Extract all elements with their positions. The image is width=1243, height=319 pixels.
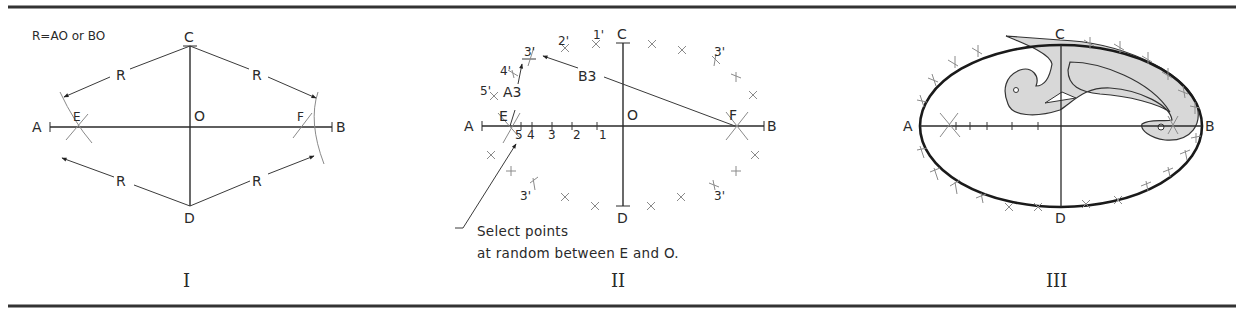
division-label: 1 — [599, 128, 607, 142]
radius-formula: R=AO or BO — [32, 29, 105, 43]
point-a-label: A — [32, 119, 42, 135]
arc-a3-label: A3 — [503, 84, 521, 100]
point-d-label: D — [184, 210, 195, 226]
radius-label: R — [116, 67, 126, 83]
point-d-label: D — [1055, 210, 1066, 226]
point-b-label: B — [767, 118, 777, 134]
panel-3: C D A B III — [903, 26, 1215, 291]
prime-label: 3' — [714, 45, 725, 59]
point-d-label: D — [617, 210, 628, 226]
prime-label: 3' — [714, 189, 725, 203]
point-c-label: C — [617, 26, 627, 42]
panel-numeral: II — [611, 270, 625, 291]
radius-label: R — [116, 173, 126, 189]
point-e-label: E — [73, 110, 81, 124]
radius-label: R — [252, 67, 262, 83]
note-line-1: Select points — [477, 223, 568, 239]
point-a-label: A — [903, 118, 913, 134]
point-o-label: O — [627, 107, 638, 123]
panel-1: R=AO or BO C D A B O E F R R R R I — [32, 29, 346, 291]
point-f-label: F — [297, 110, 304, 124]
panel-numeral: III — [1046, 270, 1067, 291]
panel-2: C D A B O E F A3 B3 5 4 3 2 1 1' 2' 3' 4… — [455, 26, 777, 291]
division-label: 2 — [573, 128, 581, 142]
point-b-label: B — [1205, 118, 1215, 134]
ellipse-construction-figure: R=AO or BO C D A B O E F R R R R I — [0, 0, 1243, 319]
point-o-label: O — [194, 108, 205, 124]
prime-label: 3' — [524, 45, 535, 59]
radius-label: R — [252, 173, 262, 189]
point-b-label: B — [336, 119, 346, 135]
prime-label: 4' — [500, 64, 511, 78]
point-c-label: C — [1055, 26, 1065, 42]
french-curve — [1005, 36, 1198, 140]
arc-b3-label: B3 — [578, 68, 597, 84]
prime-label: 2' — [558, 34, 569, 48]
prime-label: 5' — [480, 84, 491, 98]
division-label: 3 — [548, 128, 556, 142]
panel-numeral: I — [183, 270, 190, 291]
point-f-label: F — [729, 107, 737, 123]
point-c-label: C — [184, 29, 194, 45]
division-label: 4 — [527, 128, 535, 142]
prime-label: 1' — [593, 28, 604, 42]
note-line-2: at random between E and O. — [477, 245, 679, 261]
division-label: 5 — [515, 128, 523, 142]
point-a-label: A — [464, 118, 474, 134]
prime-label: 3' — [520, 189, 531, 203]
point-e-label: E — [499, 108, 508, 124]
